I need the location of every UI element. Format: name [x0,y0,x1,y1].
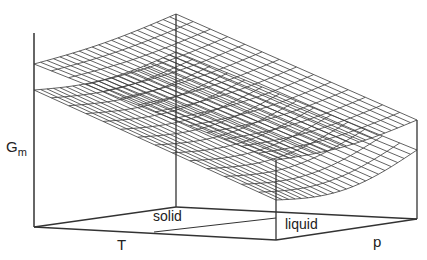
surface-plot [0,0,427,260]
gibbs-energy-diagram: Gm solid liquid T p [0,0,427,260]
pressure-axis-label: p [373,233,381,250]
upper-surface [34,14,417,160]
temperature-axis-label: T [117,236,126,253]
mesh-layer [34,14,417,200]
liquid-region-label: liquid [285,216,318,232]
gm-axis-label: Gm [6,138,27,158]
floor-edge-front-left [34,227,276,240]
solid-region-label: solid [153,208,182,224]
